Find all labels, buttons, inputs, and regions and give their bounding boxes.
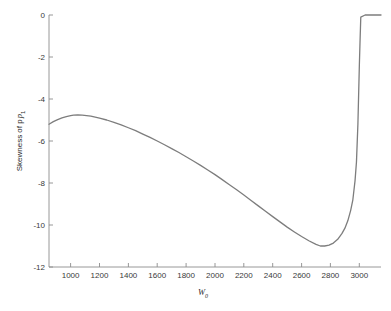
x-tick-label: 2200 [235, 271, 253, 280]
skewness-line-chart: 0 -2 -4 -6 -8 -10 -12 1000 1200 1400 [0, 0, 391, 311]
y-axis-title: Skewness of pp1 [14, 110, 26, 171]
y-tick-label: -12 [33, 263, 45, 272]
x-tick-label: 1200 [91, 271, 109, 280]
chart-background [0, 0, 391, 311]
x-axis-title-subscript: 0 [205, 293, 208, 299]
y-tick-label: -8 [38, 179, 46, 188]
x-tick-label: 1400 [120, 271, 138, 280]
x-tick-label: 1600 [148, 271, 166, 280]
x-tick-label: 2400 [264, 271, 282, 280]
x-axis-tick-labels: 1000 1200 1400 1600 1800 2000 2200 2400 … [62, 271, 369, 280]
x-tick-label: 2600 [293, 271, 311, 280]
y-tick-label: -10 [33, 221, 45, 230]
x-tick-label: 2000 [206, 271, 224, 280]
svg-text:Skewness of pp1: Skewness of pp1 [14, 110, 26, 171]
x-tick-label: 3000 [350, 271, 368, 280]
x-tick-label: 1800 [177, 271, 195, 280]
y-tick-label: 0 [41, 11, 46, 20]
x-tick-label: 2800 [322, 271, 340, 280]
figure-container: 0 -2 -4 -6 -8 -10 -12 1000 1200 1400 [0, 0, 391, 311]
y-tick-label: -6 [38, 137, 46, 146]
y-tick-label: -2 [38, 53, 46, 62]
x-tick-label: 1000 [62, 271, 80, 280]
y-axis-title-main: Skewness of p [15, 119, 24, 172]
y-tick-label: -4 [38, 95, 46, 104]
